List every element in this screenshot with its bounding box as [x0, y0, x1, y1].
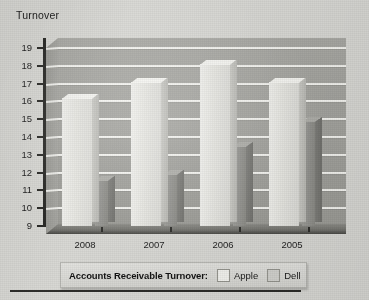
y-axis-tick	[37, 47, 46, 49]
bar-side	[299, 78, 306, 222]
y-axis-tick	[37, 172, 46, 174]
bar-apple-2008	[62, 98, 92, 226]
y-axis-tick-label: 14	[10, 131, 32, 142]
bar-side	[108, 176, 115, 222]
gridline	[58, 47, 346, 49]
x-axis-tick	[239, 227, 241, 232]
y-axis-tick-label: 10	[10, 202, 32, 213]
legend-entry-apple[interactable]: Apple	[217, 269, 258, 282]
legend: Accounts Receivable Turnover: Apple Dell	[60, 262, 307, 288]
bar-top	[269, 78, 305, 83]
bar-side	[177, 170, 184, 223]
y-axis-tick	[37, 118, 46, 120]
y-axis-tick	[37, 83, 46, 85]
y-axis-tick	[37, 100, 46, 102]
y-axis: 191817161514131211109	[34, 38, 46, 226]
x-axis-tick	[101, 227, 103, 232]
y-axis-tick-label: 17	[10, 78, 32, 89]
y-axis-tick-label: 18	[10, 60, 32, 71]
x-axis-tick-label: 2005	[262, 239, 322, 250]
legend-swatch-dell	[267, 269, 280, 282]
x-axis-line	[10, 290, 301, 292]
bar-side	[246, 142, 253, 222]
y-axis-tick-label: 19	[10, 42, 32, 53]
x-axis-tick-label: 2007	[124, 239, 184, 250]
legend-label-apple: Apple	[234, 270, 258, 281]
legend-swatch-apple	[217, 269, 230, 282]
y-axis-tick-label: 12	[10, 167, 32, 178]
x-axis-tick-label: 2006	[193, 239, 253, 250]
x-axis-tick	[308, 227, 310, 232]
bar-top	[131, 78, 167, 83]
bar-front	[62, 98, 92, 226]
y-axis-tick-label: 9	[10, 220, 32, 231]
x-axis-tick	[170, 227, 172, 232]
bar-side	[161, 78, 168, 222]
bar-front	[200, 64, 230, 226]
bar-side	[315, 117, 322, 222]
bar-apple-2005	[269, 82, 299, 226]
legend-title: Accounts Receivable Turnover:	[69, 270, 208, 281]
y-axis-tick	[37, 154, 46, 156]
y-axis-tick-label: 13	[10, 149, 32, 160]
y-axis-tick	[37, 136, 46, 138]
plot-area	[46, 38, 346, 234]
x-axis-tick-label: 2008	[55, 239, 115, 250]
bar-apple-2007	[131, 82, 161, 226]
y-axis-title: Turnover	[16, 9, 59, 21]
y-axis-tick-label: 11	[10, 184, 32, 195]
bar-apple-2006	[200, 64, 230, 226]
bar-top	[62, 94, 98, 99]
legend-entry-dell[interactable]: Dell	[267, 269, 300, 282]
bar-side	[92, 94, 99, 222]
y-axis-tick-label: 15	[10, 113, 32, 124]
y-axis-tick	[37, 189, 46, 191]
y-axis-tick	[37, 65, 46, 67]
bar-side	[230, 60, 237, 222]
bar-front	[131, 82, 161, 226]
y-axis-tick	[37, 207, 46, 209]
legend-label-dell: Dell	[284, 270, 300, 281]
bar-front	[269, 82, 299, 226]
y-axis-tick	[37, 225, 46, 227]
y-axis-tick-label: 16	[10, 95, 32, 106]
